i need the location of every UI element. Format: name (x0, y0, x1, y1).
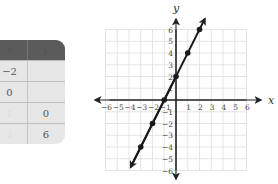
axes (96, 20, 261, 179)
data-point (150, 121, 156, 127)
y-tick-label: 4 (168, 49, 173, 58)
x-tick-label: 4 (222, 103, 227, 112)
y-tick-label: −6 (162, 167, 173, 176)
data-point (197, 27, 203, 33)
data-point (173, 74, 179, 80)
x-tick-label: 2 (198, 103, 203, 112)
data-point (138, 144, 144, 150)
x-tick-label: −3 (136, 103, 147, 112)
x-tick-label: 3 (210, 103, 215, 112)
x-axis-label: x (268, 94, 275, 107)
y-tick-label: −5 (162, 155, 173, 164)
y-tick-label: 6 (168, 26, 173, 35)
y-tick-label: 2 (168, 73, 173, 82)
y-tick-label: −4 (162, 143, 173, 152)
x-tick-label: −6 (101, 103, 112, 112)
coordinate-plane: −6−5−4−3−2−1123456654321−1−2−3−4−5−6 x y (0, 0, 278, 184)
y-axis-label: y (172, 2, 180, 15)
x-tick-label: −5 (113, 103, 124, 112)
x-tick-label: 6 (245, 103, 250, 112)
y-tick-label: 3 (168, 61, 173, 70)
y-tick-label: −2 (162, 120, 173, 129)
y-tick-label: −3 (162, 131, 173, 140)
data-point (185, 50, 191, 56)
x-tick-label: −4 (124, 103, 135, 112)
x-tick-label: −2 (148, 103, 159, 112)
y-tick-label: −1 (162, 108, 173, 117)
x-tick-label: 5 (233, 103, 238, 112)
y-tick-label: 5 (168, 37, 173, 46)
data-point (161, 97, 167, 103)
x-tick-label: 1 (186, 103, 191, 112)
